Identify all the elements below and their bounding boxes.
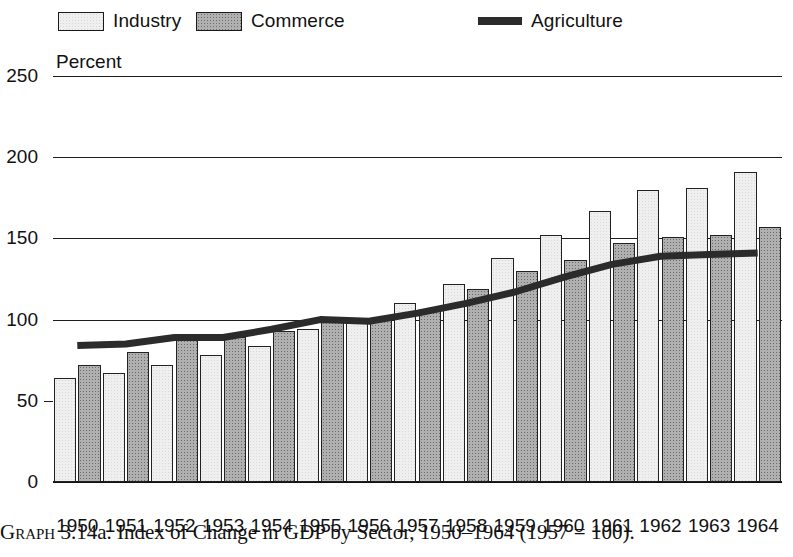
bar-commerce-1955: [321, 321, 343, 482]
y-axis-label-200: 200: [0, 147, 38, 166]
y-axis-label-100: 100: [0, 310, 38, 329]
bar-commerce-1956: [370, 320, 392, 482]
chart-area: Percent 05010015020025019501951195219531…: [0, 46, 793, 511]
plot-region: 0501001502002501950195119521953195419551…: [53, 76, 782, 482]
bar-industry-1954: [248, 346, 270, 482]
legend-label-agriculture: Agriculture: [531, 10, 623, 32]
legend-swatch-commerce-icon: [196, 12, 242, 31]
bar-industry-1955: [297, 329, 319, 482]
bar-industry-1962: [637, 190, 659, 482]
y-axis-label-250: 250: [0, 66, 38, 85]
chart-legend: Industry Commerce Agriculture: [0, 0, 793, 46]
bar-industry-1960: [540, 235, 562, 482]
caption-graph-word: Graph: [0, 520, 55, 544]
bar-industry-1950: [54, 378, 76, 482]
legend-label-commerce: Commerce: [251, 10, 345, 32]
legend-swatch-industry-icon: [58, 12, 104, 31]
bar-industry-1956: [346, 318, 368, 482]
y-tick-50: [44, 401, 53, 402]
bar-industry-1959: [491, 258, 513, 482]
y-axis-label-150: 150: [0, 228, 38, 247]
bar-industry-1963: [686, 188, 708, 482]
bar-commerce-1963: [710, 235, 732, 482]
bar-commerce-1964: [759, 227, 781, 482]
bar-industry-1964: [734, 172, 756, 482]
legend-item-commerce: Commerce: [196, 8, 345, 34]
legend-item-industry: Industry: [58, 8, 181, 34]
y-axis-title: Percent: [56, 52, 121, 71]
bar-industry-1957: [394, 303, 416, 482]
bar-industry-1953: [200, 355, 222, 482]
bar-industry-1951: [103, 373, 125, 482]
bar-commerce-1961: [613, 243, 635, 482]
bar-industry-1952: [151, 365, 173, 482]
bar-commerce-1950: [78, 365, 100, 482]
caption-text: 3.14a. Index of Change in GDP by Sector,…: [55, 520, 634, 544]
bar-commerce-1952: [176, 339, 198, 482]
bar-commerce-1953: [224, 337, 246, 482]
legend-label-industry: Industry: [113, 10, 181, 32]
legend-item-agriculture: Agriculture: [478, 8, 623, 34]
gridline-200: [53, 157, 782, 158]
gridline-250: [53, 76, 782, 77]
bar-commerce-1958: [467, 289, 489, 482]
bar-industry-1961: [589, 211, 611, 482]
bar-commerce-1959: [516, 271, 538, 482]
y-axis-label-50: 50: [0, 391, 38, 410]
bar-commerce-1954: [273, 331, 295, 482]
y-axis-label-0: 0: [0, 472, 38, 491]
bar-commerce-1957: [419, 311, 441, 482]
figure-caption: Graph 3.14a. Index of Change in GDP by S…: [0, 519, 793, 545]
legend-line-agriculture-icon: [478, 17, 522, 25]
bar-industry-1958: [443, 284, 465, 482]
bar-commerce-1951: [127, 352, 149, 482]
bar-commerce-1960: [564, 260, 586, 482]
bar-commerce-1962: [662, 237, 684, 482]
